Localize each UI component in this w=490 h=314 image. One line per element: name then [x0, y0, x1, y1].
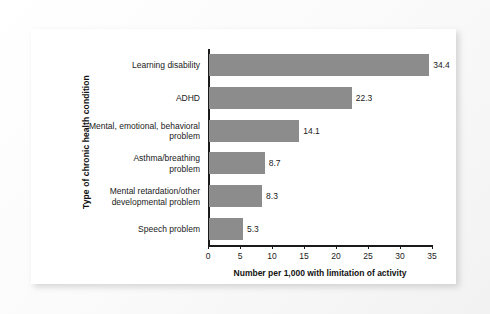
x-tick [304, 245, 305, 249]
bar-value-label: 22.3 [356, 93, 373, 103]
category-label: Mental, emotional, behavioral problem [20, 120, 200, 141]
x-axis-line [208, 245, 432, 247]
category-label: Speech problem [20, 223, 200, 234]
x-tick-label: 30 [395, 251, 404, 261]
x-axis-title: Number per 1,000 with limitation of acti… [208, 268, 432, 278]
bar-value-label: 14.1 [303, 126, 320, 136]
bar-row: ADHD22.3 [208, 87, 432, 109]
bar-value-label: 5.3 [247, 224, 259, 234]
x-tick-label: 0 [206, 251, 211, 261]
bar-row: Speech problem5.3 [208, 218, 432, 240]
category-label: Mental retardation/other developmental p… [20, 186, 200, 207]
x-tick-label: 5 [238, 251, 243, 261]
y-axis-line [208, 49, 210, 245]
bar [209, 120, 299, 142]
bar [209, 152, 265, 174]
category-label: Asthma/breathing problem [20, 153, 200, 174]
x-tick [208, 245, 209, 249]
bar [209, 87, 352, 109]
chart-panel: Type of chronic health condition Learnin… [31, 29, 456, 284]
category-label: ADHD [20, 93, 200, 104]
bar [209, 218, 243, 240]
bar-row: Learning disability34.4 [208, 54, 432, 76]
bar-row: Mental, emotional, behavioral problem14.… [208, 120, 432, 142]
x-tick-label: 35 [427, 251, 436, 261]
x-tick-label: 15 [299, 251, 308, 261]
bar-value-label: 8.3 [266, 191, 278, 201]
x-tick [272, 245, 273, 249]
x-tick [432, 245, 433, 249]
x-tick-label: 25 [363, 251, 372, 261]
bar [209, 185, 262, 207]
bar-row: Asthma/breathing problem8.7 [208, 152, 432, 174]
x-tick [400, 245, 401, 249]
x-tick-label: 20 [331, 251, 340, 261]
x-tick-label: 10 [267, 251, 276, 261]
figure-root: Type of chronic health condition Learnin… [0, 0, 490, 314]
category-label: Learning disability [20, 60, 200, 71]
x-tick [240, 245, 241, 249]
bar-row: Mental retardation/other developmental p… [208, 185, 432, 207]
plot-area: Learning disability34.4ADHD22.3Mental, e… [208, 49, 432, 245]
bar-value-label: 34.4 [433, 60, 450, 70]
bar [209, 54, 429, 76]
y-axis-title: Type of chronic health condition [81, 47, 91, 237]
x-tick [336, 245, 337, 249]
x-tick [368, 245, 369, 249]
bar-value-label: 8.7 [269, 158, 281, 168]
